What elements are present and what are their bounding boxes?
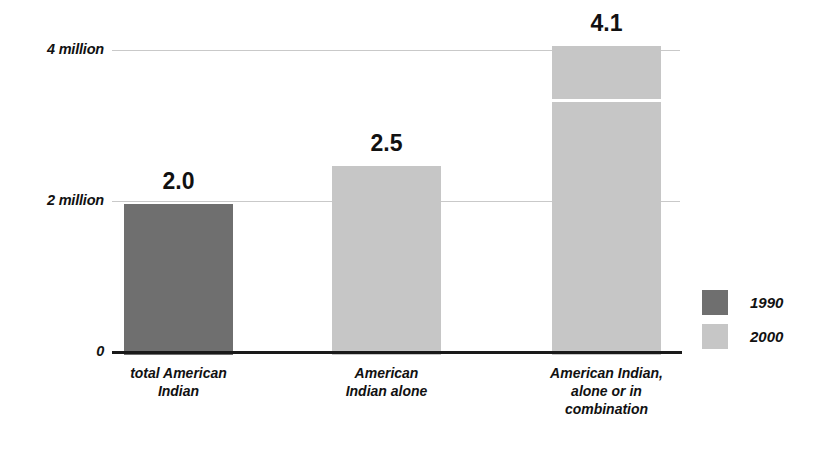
value-label-bar-2: 2.5 xyxy=(312,130,461,157)
value-label-bar-1: 2.0 xyxy=(104,168,253,195)
chart-container: 4 million 2 million 0 2.0 2.5 4.1 total … xyxy=(0,0,817,450)
legend-label-1990: 1990 xyxy=(750,294,783,311)
legend-item-2000: 2000 xyxy=(702,319,783,353)
category-label-line: alone or in xyxy=(507,382,706,400)
y-tick-label-2million: 2 million xyxy=(47,192,104,208)
legend-label-2000: 2000 xyxy=(750,328,783,345)
bar-internal-divider xyxy=(552,99,661,102)
bar-american-indian-alone-or-in-combination xyxy=(552,46,661,355)
category-label-american-indian-alone: AmericanIndian alone xyxy=(287,364,486,400)
legend-item-1990: 1990 xyxy=(702,285,783,319)
category-label-line: Indian xyxy=(79,382,278,400)
category-label-line: Indian alone xyxy=(287,382,486,400)
bar-total-american-indian xyxy=(124,204,233,355)
y-tick-label-zero: 0 xyxy=(96,343,104,359)
category-label-line: combination xyxy=(507,400,706,418)
x-axis-line xyxy=(112,351,682,354)
legend: 1990 2000 xyxy=(702,285,783,353)
category-label-line: total American xyxy=(79,364,278,382)
category-label-line: American xyxy=(287,364,486,382)
category-label-line: American Indian, xyxy=(507,364,706,382)
category-label-total-american-indian: total AmericanIndian xyxy=(79,364,278,400)
value-label-bar-3: 4.1 xyxy=(532,10,681,37)
bar-american-indian-alone xyxy=(332,166,441,355)
y-tick-label-4million: 4 million xyxy=(47,41,104,57)
legend-swatch-2000 xyxy=(702,324,728,349)
category-label-american-indian-alone-or-in-combination: American Indian,alone or incombination xyxy=(507,364,706,418)
legend-swatch-1990 xyxy=(702,290,728,315)
